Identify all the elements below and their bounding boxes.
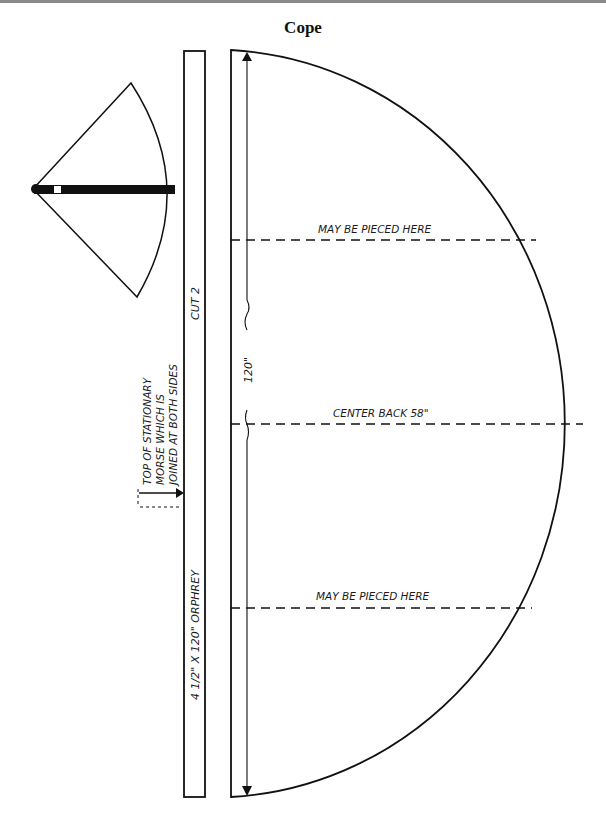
morse-square	[54, 186, 61, 193]
orphrey-label: 4 1/2" X 120" ORPHREY	[189, 569, 202, 700]
svg-text:MORSE WHICH IS: MORSE WHICH IS	[154, 394, 166, 485]
center-back-label: CENTER BACK 58"	[333, 407, 429, 419]
length-label: 120"	[242, 357, 255, 383]
svg-text:TOP OF STATIONARY: TOP OF STATIONARY	[141, 376, 153, 485]
orphrey-strip: CUT 2 4 1/2" X 120" ORPHREY	[184, 51, 205, 797]
cope-panel: 120" MAY BE PIECED HERE CENTER BACK 58" …	[231, 50, 583, 797]
svg-text:JOINED AT BOTH SIDES: JOINED AT BOTH SIDES	[167, 364, 179, 487]
cope-pattern-diagram: CUT 2 4 1/2" X 120" ORPHREY TOP OF STATI…	[0, 0, 606, 826]
morse-note: TOP OF STATIONARY MORSE WHICH IS JOINED …	[138, 364, 184, 507]
cut-label: CUT 2	[189, 287, 202, 320]
cope-thumbnail	[31, 83, 179, 297]
piecing-label-bottom: MAY BE PIECED HERE	[316, 590, 429, 602]
piecing-label-top: MAY BE PIECED HERE	[318, 223, 431, 235]
